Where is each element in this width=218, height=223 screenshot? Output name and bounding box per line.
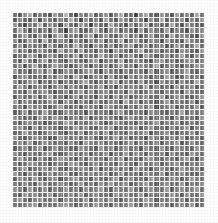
heatmap-grid [13, 13, 205, 208]
heatmap-plot-area [13, 13, 205, 208]
heatmap-figure [0, 0, 218, 223]
heatmap-cell [200, 203, 205, 208]
